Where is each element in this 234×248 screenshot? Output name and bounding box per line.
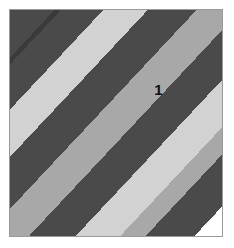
plot-frame: 1 [9, 9, 223, 237]
stripe-pattern-panel: 1 [0, 0, 234, 248]
stripe-svg [10, 10, 222, 236]
diagonal-stripe-canvas [10, 10, 222, 236]
stripe-band-group [10, 10, 222, 236]
